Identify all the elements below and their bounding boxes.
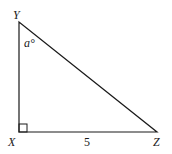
triangle-xyz [19,22,157,132]
side-xz-length: 5 [84,135,90,149]
triangle-diagram: Y a° X 5 Z [0,0,172,154]
vertex-label-z: Z [153,135,160,149]
vertex-label-x: X [7,135,16,149]
vertex-label-y: Y [13,8,21,22]
angle-label-a: a° [24,36,35,50]
right-angle-marker [19,124,27,132]
